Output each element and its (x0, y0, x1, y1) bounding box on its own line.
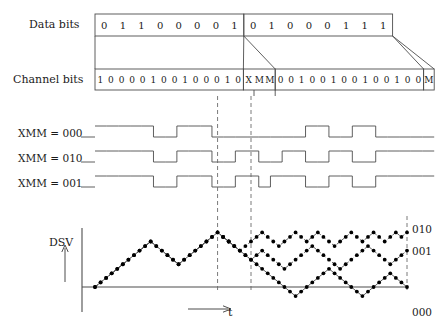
dsv-point-shared-16 (182, 258, 186, 262)
dsv-point-000-52 (383, 276, 387, 280)
dsv-point-010-40 (316, 231, 320, 235)
dsv-point-010-26 (238, 249, 242, 253)
dsv-point-010-49 (366, 235, 370, 239)
channel-bit-f1-4: 0 (140, 75, 146, 85)
dsv-point-shared-17 (188, 253, 192, 257)
dsv-point-001-47 (355, 253, 359, 257)
dsv-point-001-51 (377, 253, 381, 257)
merging-bit-2-0: M (424, 75, 433, 85)
dsv-point-000-32 (271, 276, 275, 280)
dsv-point-010-29 (255, 235, 259, 239)
data-bit-f2-1: 1 (269, 20, 275, 31)
channel-bit-f2-10: 0 (384, 75, 390, 85)
data-bit-f1-4: 0 (176, 20, 182, 31)
dsv-point-000-50 (372, 285, 376, 289)
dsv-point-shared-4 (115, 267, 119, 271)
dsv-point-010-27 (244, 244, 248, 248)
dsv-curve-label-000: 000 (412, 306, 432, 318)
channel-bit-f1-6: 0 (161, 75, 167, 85)
data-bits-row-label: Data bits (29, 18, 79, 31)
channel-bit-f1-13: 0 (235, 75, 241, 85)
dsv-point-shared-18 (193, 249, 197, 253)
dsv-point-000-51 (377, 281, 381, 285)
waveform-1 (95, 151, 434, 162)
dsv-point-001-34 (283, 267, 287, 271)
channel-bits-frame1-box (95, 69, 243, 90)
dsv-point-001-55 (400, 253, 404, 257)
dsv-point-010-44 (338, 240, 342, 244)
dsv-curve-label-001: 001 (412, 245, 432, 257)
dsv-point-000-42 (327, 267, 331, 271)
dsv-point-shared-8 (138, 249, 142, 253)
dsv-point-010-34 (283, 240, 287, 244)
dsv-point-000-35 (288, 290, 292, 294)
channel-bit-f1-2: 0 (119, 75, 125, 85)
dsv-point-010-48 (361, 240, 365, 244)
data-bit-f2-4: 0 (324, 20, 330, 31)
dsv-point-001-48 (361, 249, 365, 253)
data-bit-f2-0: 0 (250, 20, 256, 31)
dsv-point-000-37 (299, 290, 303, 294)
dsv-point-000-45 (344, 281, 348, 285)
channel-bit-f2-9: 0 (373, 75, 379, 85)
dsv-point-010-23 (221, 235, 225, 239)
channel-bit-f1-10: 0 (203, 75, 209, 85)
dsv-point-010-35 (288, 235, 292, 239)
dsv-point-000-41 (322, 271, 326, 275)
dsv-point-shared-6 (127, 258, 131, 262)
dsv-point-010-53 (388, 235, 392, 239)
dsv-point-010-41 (322, 235, 326, 239)
dsv-axis-label: DSV (49, 236, 73, 249)
dsv-point-000-47 (355, 290, 359, 294)
dsv-point-000-44 (338, 276, 342, 280)
dsv-point-001-40 (316, 249, 320, 253)
dsv-point-shared-2 (104, 276, 108, 280)
connector-merging2-right (393, 36, 435, 69)
dsv-point-010-33 (277, 244, 281, 248)
dsv-point-001-44 (338, 267, 342, 271)
dsv-point-shared-9 (143, 244, 147, 248)
dsv-point-010-55 (400, 235, 404, 239)
channel-bit-f2-7: 0 (352, 75, 358, 85)
dsv-point-010-36 (294, 231, 298, 235)
dsv-point-010-42 (327, 240, 331, 244)
dsv-point-001-45 (344, 262, 348, 266)
dsv-point-001-28 (249, 258, 253, 262)
dsv-point-010-43 (333, 244, 337, 248)
channel-bit-f2-12: 0 (405, 75, 411, 85)
dsv-point-shared-13 (166, 253, 170, 257)
dsv-point-010-45 (344, 235, 348, 239)
connector-frame2-right (393, 36, 424, 69)
data-bit-f1-2: 1 (138, 20, 144, 31)
data-bit-f2-2: 0 (287, 20, 293, 31)
dsv-point-000-55 (400, 281, 404, 285)
dsv-point-000-31 (266, 271, 270, 275)
dsv-point-001-46 (349, 258, 353, 262)
dsv-point-shared-15 (177, 262, 181, 266)
data-bit-f1-6: 0 (213, 20, 219, 31)
dsv-point-000-38 (305, 285, 309, 289)
dsv-point-001-49 (366, 244, 370, 248)
channel-bit-f2-1: 0 (288, 75, 294, 85)
dsv-point-000-48 (361, 294, 365, 298)
dsv-point-shared-10 (149, 240, 153, 244)
channel-bits-frame2-box (275, 69, 423, 90)
dsv-point-010-46 (349, 231, 353, 235)
dsv-point-shared-22 (216, 231, 220, 235)
dsv-point-001-52 (383, 258, 387, 262)
dsv-point-shared-3 (110, 271, 114, 275)
waveform-0 (95, 126, 434, 137)
dsv-point-001-32 (271, 258, 275, 262)
channel-bit-f2-5: 1 (331, 75, 337, 85)
data-bit-f2-7: 1 (380, 20, 386, 31)
dsv-point-010-30 (260, 231, 264, 235)
waveform-2 (95, 176, 434, 187)
dsv-point-001-29 (255, 253, 259, 257)
dsv-point-010-56 (405, 231, 409, 235)
dsv-point-shared-14 (171, 258, 175, 262)
dsv-point-shared-0 (93, 285, 97, 289)
dsv-curve-label-010: 010 (412, 223, 432, 235)
data-bit-f2-3: 0 (306, 20, 312, 31)
merging-bit-1-1: M (255, 75, 264, 85)
dsv-point-shared-7 (132, 253, 136, 257)
